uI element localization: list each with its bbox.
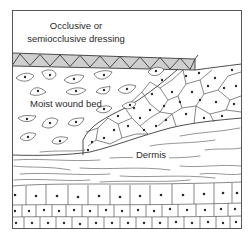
dressing-label-line2: semiocclusive dressing	[27, 33, 125, 44]
wound-bed-label: Moist wound bed	[30, 98, 102, 109]
wound-healing-diagram: Occlusive or semiocclusive dressing	[0, 0, 249, 233]
dressing-label-line1: Occlusive or	[50, 20, 102, 31]
dermis-label: Dermis	[136, 149, 166, 160]
